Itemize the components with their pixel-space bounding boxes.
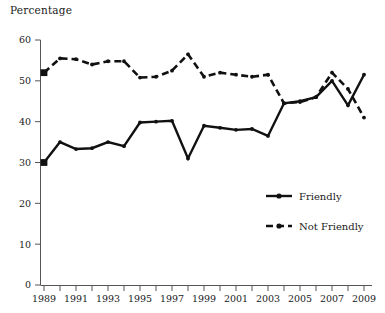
x-tick-label: 2009 xyxy=(352,293,376,304)
data-point xyxy=(362,116,366,120)
data-point xyxy=(74,147,78,151)
x-tick-label: 2007 xyxy=(320,293,344,304)
x-tick-label: 2005 xyxy=(288,293,312,304)
y-tick-label: 20 xyxy=(19,198,31,209)
data-point xyxy=(202,124,206,128)
y-tick-label: 0 xyxy=(25,279,31,290)
data-point xyxy=(218,126,222,130)
data-point xyxy=(362,73,366,77)
legend-label: Friendly xyxy=(299,191,342,202)
x-tick-group: 1989199119931995199719992001200320052007… xyxy=(32,286,376,305)
y-tick-label: 30 xyxy=(19,157,31,168)
data-point xyxy=(346,87,350,91)
data-point xyxy=(90,63,94,67)
series-group xyxy=(41,52,366,166)
data-point xyxy=(266,134,270,138)
data-point xyxy=(330,71,334,75)
data-point xyxy=(154,120,158,124)
data-point xyxy=(41,159,48,166)
x-tick-label: 1999 xyxy=(192,293,216,304)
data-point xyxy=(346,103,350,107)
data-point xyxy=(314,95,318,99)
data-point xyxy=(266,73,270,77)
y-axis: 0102030405060 xyxy=(19,34,41,290)
chart-plot-area: 0102030405060 19891991199319951997199920… xyxy=(0,0,385,313)
legend-label: Not Friendly xyxy=(299,221,364,232)
x-tick-label: 2003 xyxy=(256,293,280,304)
y-tick-group: 0102030405060 xyxy=(19,34,41,290)
data-point xyxy=(282,101,286,105)
x-tick-label: 1997 xyxy=(160,293,184,304)
data-point xyxy=(250,75,254,79)
data-point xyxy=(41,69,48,76)
x-tick-label: 1993 xyxy=(96,293,120,304)
data-point xyxy=(186,52,190,56)
data-point xyxy=(58,140,62,144)
data-point xyxy=(218,71,222,75)
chart-container: Percentage 0102030405060 198919911993199… xyxy=(0,0,385,313)
data-point xyxy=(298,100,302,104)
x-tick-label: 1995 xyxy=(128,293,152,304)
data-point xyxy=(122,144,126,148)
y-tick-label: 60 xyxy=(19,34,31,45)
data-point xyxy=(234,128,238,132)
legend-marker xyxy=(276,223,281,228)
x-tick-label: 1989 xyxy=(32,293,56,304)
y-tick-label: 50 xyxy=(19,75,31,86)
data-point xyxy=(74,57,78,61)
data-point xyxy=(90,146,94,150)
data-point xyxy=(106,59,110,63)
data-point xyxy=(330,79,334,83)
data-point xyxy=(58,56,62,60)
x-tick-label: 1991 xyxy=(64,293,88,304)
x-tick-label: 2001 xyxy=(224,293,248,304)
data-point xyxy=(170,69,174,73)
y-tick-label: 10 xyxy=(19,239,31,250)
data-point xyxy=(154,75,158,79)
legend-marker xyxy=(276,193,281,198)
data-point xyxy=(170,119,174,123)
x-axis: 1989199119931995199719992001200320052007… xyxy=(32,286,376,305)
data-point xyxy=(106,140,110,144)
data-point xyxy=(250,127,254,131)
data-point xyxy=(138,121,142,125)
data-point xyxy=(234,73,238,77)
data-point xyxy=(138,76,142,80)
data-point xyxy=(122,59,126,63)
chart-legend: FriendlyNot Friendly xyxy=(266,191,364,232)
data-point xyxy=(186,157,190,161)
data-point xyxy=(202,75,206,79)
y-tick-label: 40 xyxy=(19,116,31,127)
